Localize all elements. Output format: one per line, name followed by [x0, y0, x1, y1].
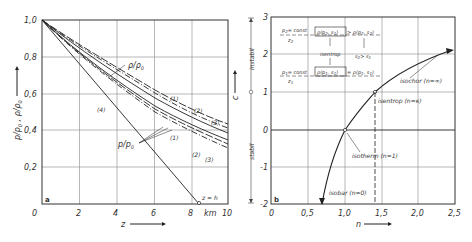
plot-frame-b — [271, 17, 455, 204]
isobar-label: isobar (n=0) — [329, 189, 367, 196]
stabil-label: stabil — [248, 143, 255, 160]
svg-text:2: 2 — [263, 50, 268, 59]
svg-text:1,0: 1,0 — [24, 16, 37, 25]
isochor-label: isochor (n=∞) — [400, 77, 442, 84]
z-equals-h-marker — [197, 201, 200, 204]
svg-text:ρ(p1, s1): ρ(p1, s1) — [317, 69, 338, 76]
panel-a: ρ/ρ0 p/p0 (1) (2) (3) (1) (2) (3) (4) z … — [13, 16, 232, 229]
linear-atmosphere-line — [42, 20, 199, 204]
svg-text:km: km — [204, 209, 217, 218]
y-ticks-b: 3 2 1 0 -1 -2 — [260, 13, 268, 209]
curve-label-p-2: (2) — [192, 151, 201, 158]
density-curves — [42, 20, 228, 133]
y-axis-label-b: c — [231, 70, 240, 100]
inset-diagram: p2= const z2 ρ(p2, s1) > ρ(p2, s2) isent… — [280, 27, 380, 85]
svg-text:0: 0 — [263, 126, 268, 135]
curve-label-rho-2: (2) — [194, 107, 203, 114]
curve-label-rho-1: (1) — [170, 95, 179, 102]
x-axis-label-b: n — [356, 220, 361, 229]
svg-text:isentrop: isentrop — [320, 51, 341, 58]
panel-label-a: a — [45, 196, 50, 204]
svg-text:0: 0 — [32, 209, 37, 218]
svg-text:10: 10 — [222, 209, 232, 218]
x-ticks-b: 0 0,5 1,0 1,5 2,0 2,5 — [269, 209, 461, 218]
svg-text:ρ(p2, s1): ρ(p2, s1) — [317, 29, 338, 36]
svg-text:1,0: 1,0 — [338, 209, 351, 218]
svg-text:-2: -2 — [260, 200, 268, 209]
isentrop-label: isentrop (n=κ) — [378, 97, 422, 105]
curve-label-rho-3: (3) — [211, 119, 220, 126]
svg-text:> ρ(p2, s2): > ρ(p2, s2) — [347, 29, 374, 36]
x-ticks-a: 0 2 4 6 8 km 10 — [32, 209, 232, 218]
z-equals-h-label: z = h — [201, 194, 218, 201]
svg-text:0,6: 0,6 — [24, 90, 37, 99]
svg-text:8: 8 — [188, 209, 193, 218]
svg-text:3: 3 — [263, 13, 268, 22]
panel-b: isobar (n=0) isotherm (n=1) isentrop (n=… — [231, 13, 461, 229]
grid-b — [271, 17, 455, 204]
svg-text:p1= const: p1= const — [281, 69, 308, 76]
svg-text:= ρ(p1, s1): = ρ(p1, s1) — [347, 69, 374, 76]
svg-text:-1: -1 — [260, 163, 268, 172]
svg-text:p2= const: p2= const — [281, 27, 308, 34]
svg-text:2,0: 2,0 — [411, 209, 424, 218]
isotherm-marker — [343, 128, 346, 131]
svg-text:s2> s1: s2> s1 — [355, 53, 371, 60]
svg-text:z2: z2 — [287, 37, 294, 44]
curve-label-p-1: (1) — [170, 134, 179, 141]
svg-text:0,4: 0,4 — [24, 126, 37, 135]
y-ticks-a: 1,0 0,8 0,6 0,4 0,2 — [24, 16, 37, 172]
stability-indicator: instabil stabil — [248, 18, 255, 203]
svg-text:0: 0 — [269, 209, 274, 218]
y-axis-label-a: p/p0 , ρ/ρ0 — [13, 66, 23, 141]
svg-text:c: c — [231, 95, 240, 100]
curve-label-4: (4) — [97, 106, 106, 113]
svg-text:6: 6 — [151, 209, 156, 218]
instabil-label: instabil — [248, 48, 255, 70]
svg-text:z1: z1 — [287, 78, 293, 85]
panel-label-b: b — [274, 196, 279, 204]
svg-text:0,8: 0,8 — [24, 53, 37, 62]
svg-text:4: 4 — [113, 209, 118, 218]
svg-text:p/p0 , ρ/ρ0: p/p0 , ρ/ρ0 — [13, 100, 23, 141]
svg-text:1: 1 — [263, 88, 268, 97]
svg-text:2: 2 — [76, 209, 81, 218]
isotherm-label: isotherm (n=1) — [352, 152, 398, 159]
svg-text:2,5: 2,5 — [448, 209, 461, 218]
figure: ρ/ρ0 p/p0 (1) (2) (3) (1) (2) (3) (4) z … — [0, 0, 472, 242]
c-of-n-curve — [322, 50, 452, 204]
svg-text:1,5: 1,5 — [375, 209, 388, 218]
curve-label-p-3: (3) — [205, 156, 214, 163]
svg-text:0,2: 0,2 — [24, 163, 37, 172]
p-label: p/p0 — [117, 140, 134, 150]
rho-label: ρ/ρ0 — [128, 61, 144, 71]
svg-text:0,5: 0,5 — [301, 209, 314, 218]
x-axis-label-a: z — [120, 220, 126, 229]
